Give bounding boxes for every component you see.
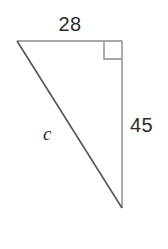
hypotenuse-line: [17, 41, 122, 208]
top-leg-label: 28: [0, 14, 140, 34]
right-triangle-figure: 28 45 c: [0, 0, 168, 249]
right-angle-marker-icon: [104, 41, 122, 59]
hypotenuse-label: c: [43, 124, 51, 143]
vertical-leg-label: 45: [130, 115, 153, 135]
